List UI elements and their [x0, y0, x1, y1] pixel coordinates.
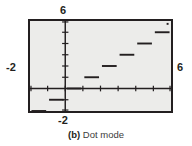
y-axis-max-label: 6 — [60, 5, 66, 16]
figure-dot-mode: 6 -2 6 -2 (b) Dot mode — [0, 0, 192, 146]
y-axis-min-label: -2 — [58, 115, 68, 126]
calculator-screen — [28, 19, 173, 113]
x-axis-max-label: 6 — [177, 62, 183, 73]
x-axis-min-label: -2 — [6, 62, 16, 73]
figure-caption: (b) Dot mode — [0, 129, 192, 141]
step-function-plot — [30, 21, 171, 111]
step-segments — [31, 32, 169, 111]
caption-text: Dot mode — [83, 129, 124, 140]
cursor-pixel — [167, 23, 169, 25]
caption-letter: (b) — [68, 129, 80, 140]
